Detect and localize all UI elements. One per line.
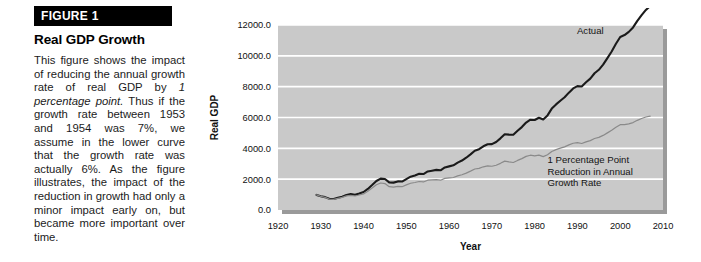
y-axis-tick-1: 2000.0 bbox=[243, 175, 271, 185]
x-axis-tick-1: 1930 bbox=[310, 221, 331, 231]
x-axis-tick-2: 1940 bbox=[353, 221, 374, 231]
y-axis-tick-4: 8000.0 bbox=[243, 82, 271, 92]
y-axis-tick-2: 4000.0 bbox=[243, 144, 271, 154]
x-axis-title: Year bbox=[460, 241, 481, 252]
actual-label: Actual bbox=[577, 25, 604, 36]
y-axis-tick-5: 10000.0 bbox=[237, 51, 271, 61]
x-axis-tick-4: 1960 bbox=[439, 221, 460, 231]
figure-caption-column: FIGURE 1 Real GDP Growth This figure sho… bbox=[34, 6, 186, 258]
x-axis-tick-5: 1970 bbox=[482, 221, 503, 231]
x-axis-tick-7: 1990 bbox=[567, 221, 588, 231]
figure-title: Real GDP Growth bbox=[34, 32, 186, 48]
y-axis-title: Real GDP bbox=[209, 94, 220, 140]
y-axis-tick-3: 6000.0 bbox=[243, 113, 271, 123]
y-axis-tick-0: 0.0 bbox=[258, 205, 271, 215]
figure-number-banner: FIGURE 1 bbox=[34, 6, 172, 26]
x-axis-tick-8: 2000 bbox=[610, 221, 631, 231]
figure-page: FIGURE 1 Real GDP Growth This figure sho… bbox=[0, 0, 701, 262]
x-axis-tick-6: 1980 bbox=[524, 221, 545, 231]
caption-segment-1: This figure shows the impact of reducing… bbox=[34, 54, 185, 93]
real-gdp-line-chart: 0.02000.04000.06000.08000.010000.012000.… bbox=[196, 8, 701, 254]
x-axis-tick-9: 2010 bbox=[653, 221, 674, 231]
reduced-label-line1: 1 Percentage Point bbox=[548, 154, 630, 165]
figure-caption-text: This figure shows the impact of reducing… bbox=[34, 54, 185, 244]
x-axis-tick-0: 1920 bbox=[268, 221, 289, 231]
caption-segment-2: Thus if the growth rate between 1953 and… bbox=[34, 95, 185, 243]
x-axis-tick-3: 1950 bbox=[396, 221, 417, 231]
reduced-label-line2: Reduction in Annual bbox=[548, 166, 633, 177]
y-axis-tick-6: 12000.0 bbox=[237, 20, 271, 30]
reduced-label-line3: Growth Rate bbox=[548, 177, 602, 188]
chart-container: 0.02000.04000.06000.08000.010000.012000.… bbox=[196, 8, 701, 254]
